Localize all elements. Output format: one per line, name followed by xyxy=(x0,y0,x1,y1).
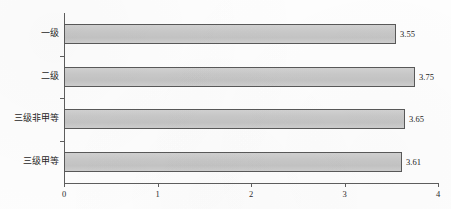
bar-1 xyxy=(64,24,396,44)
bar-value-label-4: 3.61 xyxy=(406,158,421,167)
bar-4 xyxy=(64,152,402,172)
category-label-3: 三级非甲等 xyxy=(14,114,59,123)
y-axis-tick xyxy=(60,141,64,142)
x-axis-tick xyxy=(345,183,346,187)
bar-value-label-2: 3.75 xyxy=(419,73,434,82)
y-axis-tick xyxy=(60,98,64,99)
y-axis-tick xyxy=(60,56,64,57)
bar-value-label-3: 3.65 xyxy=(409,115,424,124)
x-axis-tick xyxy=(64,183,65,187)
category-label-4: 三级甲等 xyxy=(23,157,59,166)
bar-3 xyxy=(64,109,405,129)
x-axis-tick-label: 4 xyxy=(436,190,440,199)
bar-2 xyxy=(64,67,415,87)
x-axis-tick-label: 0 xyxy=(62,190,66,199)
bar-chart: 01234 一级二级三级非甲等三级甲等 3.553.753.653.61 xyxy=(0,0,451,209)
x-axis-tick-label: 1 xyxy=(155,190,159,199)
x-axis-tick-label: 3 xyxy=(342,190,346,199)
bar-value-label-1: 3.55 xyxy=(400,30,415,39)
category-label-1: 一级 xyxy=(41,29,59,38)
x-axis-tick-label: 2 xyxy=(249,190,253,199)
category-label-2: 二级 xyxy=(41,72,59,81)
x-axis-tick xyxy=(158,183,159,187)
x-axis-tick xyxy=(438,183,439,187)
x-axis-tick xyxy=(251,183,252,187)
